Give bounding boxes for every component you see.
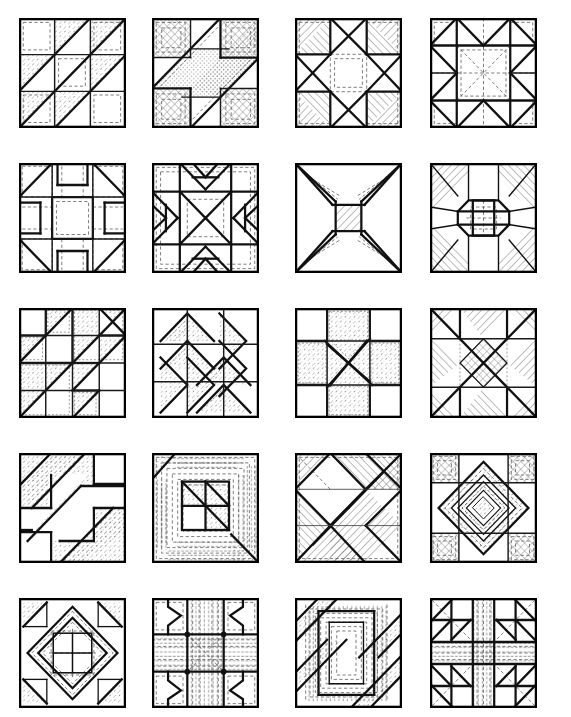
quilt-block-6-drawing: [152, 163, 259, 273]
quilt-block-17[interactable]: [19, 598, 126, 708]
quilt-block-9[interactable]: [19, 308, 126, 418]
quilt-block-18[interactable]: [152, 598, 259, 708]
quilt-block-2[interactable]: [152, 18, 259, 128]
quilt-block-10-drawing: [152, 308, 259, 418]
quilt-block-13[interactable]: [19, 453, 126, 563]
quilt-block-3[interactable]: [295, 18, 402, 128]
quilt-block-20-drawing: [430, 598, 537, 708]
quilt-block-20[interactable]: [430, 598, 537, 708]
quilt-block-6[interactable]: [152, 163, 259, 273]
quilt-block-1[interactable]: [19, 18, 126, 128]
quilt-block-5[interactable]: [19, 163, 126, 273]
quilt-block-7-drawing: [295, 163, 402, 273]
quilt-block-4[interactable]: [430, 18, 537, 128]
quilt-block-19[interactable]: [295, 598, 402, 708]
quilt-block-1-drawing: [19, 18, 126, 128]
quilt-block-15[interactable]: [295, 453, 402, 563]
quilt-block-9-drawing: [19, 308, 126, 418]
quilt-block-14[interactable]: [152, 453, 259, 563]
quilt-block-5-drawing: [19, 163, 126, 273]
quilt-block-11[interactable]: [295, 308, 402, 418]
quilt-block-11-drawing: [295, 308, 402, 418]
quilt-block-15-drawing: [295, 453, 402, 563]
quilt-block-19-drawing: [295, 598, 402, 708]
quilt-block-10[interactable]: [152, 308, 259, 418]
quilt-block-8[interactable]: [430, 163, 537, 273]
pattern-sheet: [0, 0, 571, 717]
quilt-block-16-drawing: [430, 453, 537, 563]
quilt-block-12-drawing: [430, 308, 537, 418]
quilt-block-17-drawing: [19, 598, 126, 708]
quilt-block-2-drawing: [152, 18, 259, 128]
quilt-block-8-drawing: [430, 163, 537, 273]
quilt-block-4-drawing: [430, 18, 537, 128]
quilt-block-14-drawing: [152, 453, 259, 563]
quilt-block-7[interactable]: [295, 163, 402, 273]
quilt-block-13-drawing: [19, 453, 126, 563]
quilt-block-16[interactable]: [430, 453, 537, 563]
quilt-block-3-drawing: [295, 18, 402, 128]
quilt-block-12[interactable]: [430, 308, 537, 418]
quilt-block-18-drawing: [152, 598, 259, 708]
